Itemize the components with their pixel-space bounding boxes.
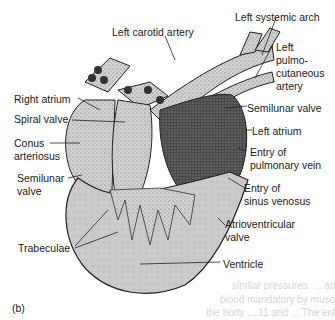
background-text-line-3: blood mandatory by muscle and ... arteri… <box>220 293 335 306</box>
label-ventricle: Ventricle <box>223 258 263 270</box>
label-semilunar-valve-lower: Semilunar valve <box>17 172 64 198</box>
label-conus-arteriosus: Conus arteriosus <box>14 137 60 163</box>
label-spiral-valve: Spiral valve <box>14 113 68 125</box>
label-right-atrium: Right atrium <box>14 93 71 105</box>
label-left-atrium: Left atrium <box>252 125 302 137</box>
label-left-carotid-artery: Left carotid artery <box>112 26 194 38</box>
label-atrioventricular-valve: Atrioventricular valve <box>225 218 295 244</box>
label-left-pulmocutaneous-artery: Left pulmo- cutaneous artery <box>276 41 324 93</box>
conus-shape <box>112 100 152 195</box>
background-text-line-2: similar pressures, ... arteries. <box>232 279 335 292</box>
panel-label: (b) <box>12 302 25 314</box>
label-entry-sinus-venosus: Entry of sinus venosus <box>244 182 311 208</box>
label-entry-pulmonary-vein: Entry of pulmonary vein <box>250 146 321 172</box>
label-left-systemic-arch: Left systemic arch <box>235 11 320 23</box>
label-semilunar-valve-upper: Semilunar valve <box>247 102 322 114</box>
heart-diagram: Left carotid artery Left systemic arch L… <box>0 0 335 320</box>
label-trabeculae: Trabeculae <box>18 242 70 254</box>
right-atrium-shape <box>66 100 115 195</box>
background-text-line-4: the body ... 11 and ... The enhanced <box>206 306 335 319</box>
